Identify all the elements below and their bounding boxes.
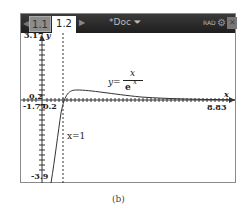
- chevron-down-icon: ⏷: [134, 17, 141, 27]
- tick-x-label: 0.2: [43, 101, 57, 111]
- angle-mode-indicator: RAD: [203, 19, 216, 26]
- calculator-window: ◀ 1.1 1.2 ▶ *Doc ⏷ RAD ⚙ ✕: [20, 13, 236, 183]
- next-page-icon[interactable]: ▶: [79, 18, 85, 27]
- toolbar: ◀ 1.1 1.2 ▶ *Doc ⏷ RAD ⚙ ✕: [21, 14, 235, 33]
- y-min-label: -3.9: [31, 171, 48, 181]
- doc-title: *Doc: [109, 17, 131, 27]
- y-max-label: 3.17: [24, 30, 43, 40]
- function-denominator: e: [125, 82, 131, 92]
- x-max-label: 8.83: [207, 102, 226, 112]
- graph-area[interactable]: 3.17 y -1.77 8.83 x 0.2 0.2 -3.9 y= x e …: [21, 33, 235, 183]
- function-numerator: x: [130, 68, 135, 78]
- y-axis-label: y: [46, 30, 51, 40]
- x-axis-label: x: [224, 89, 229, 99]
- tab-1-2[interactable]: 1.2: [52, 16, 76, 34]
- figure-caption: (b): [112, 194, 125, 204]
- function-lhs: y=: [108, 77, 121, 87]
- close-icon[interactable]: ✕: [227, 17, 237, 29]
- document-menu[interactable]: *Doc ⏷: [109, 17, 141, 28]
- vertical-line-label: x=1: [67, 131, 85, 141]
- battery-settings-icon[interactable]: ⚙: [217, 17, 226, 28]
- tick-y-label: 0.2: [29, 91, 43, 101]
- function-denominator-exponent: x: [133, 78, 137, 86]
